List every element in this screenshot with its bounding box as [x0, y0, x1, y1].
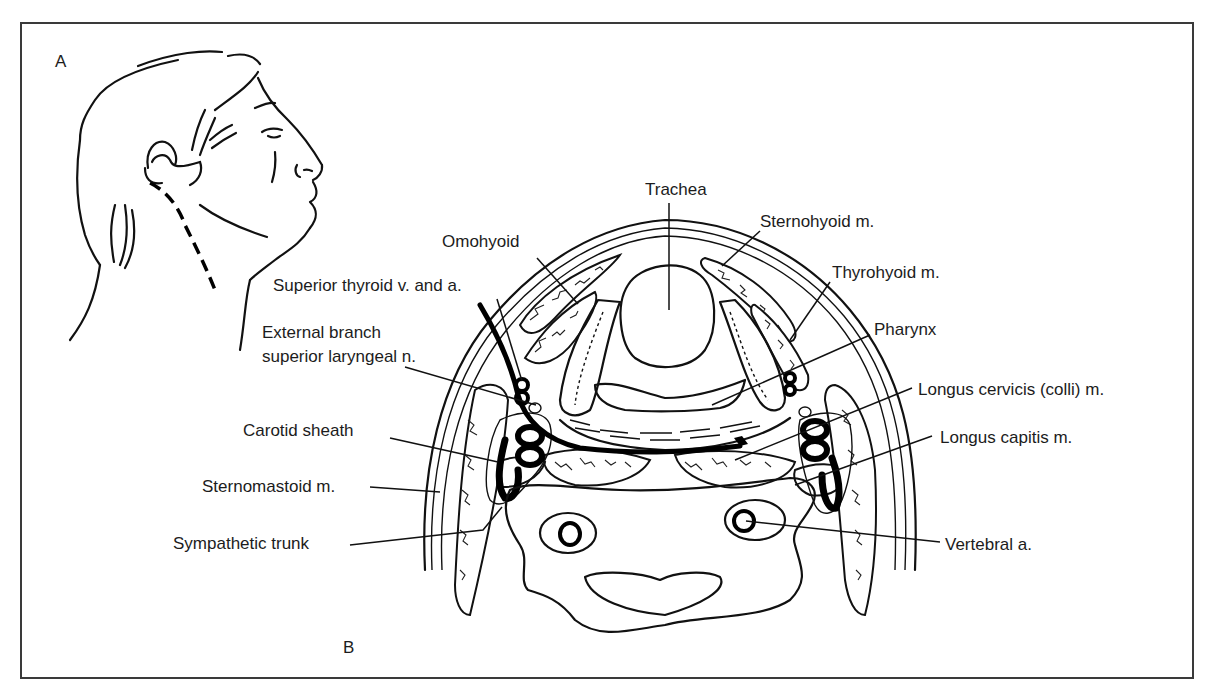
- pharynx-shape: [595, 380, 745, 411]
- label-trachea: Trachea: [645, 180, 707, 199]
- label-external-branch-1: External branch: [262, 323, 381, 342]
- label-longus-capitis: Longus capitis m.: [940, 428, 1072, 447]
- label-sternomastoid: Sternomastoid m.: [202, 477, 335, 496]
- spinal-canal-shape: [585, 573, 721, 615]
- illustration: [0, 0, 1213, 692]
- label-vertebral-artery: Vertebral a.: [945, 535, 1032, 554]
- label-carotid-sheath: Carotid sheath: [243, 421, 354, 440]
- head-profile-drawing: [70, 51, 322, 350]
- label-pharynx: Pharynx: [874, 320, 936, 339]
- trachea-shape: [621, 265, 715, 367]
- label-thyrohyoid: Thyrohyoid m.: [832, 263, 940, 282]
- anatomy-figure: A B Trachea Sternohyoid m. Omohyoid Thyr…: [0, 0, 1213, 692]
- label-external-branch-2: superior laryngeal n.: [262, 347, 416, 366]
- left-vertebral-artery: [560, 523, 580, 545]
- label-sternohyoid: Sternohyoid m.: [760, 212, 874, 231]
- label-superior-thyroid: Superior thyroid v. and a.: [273, 276, 462, 295]
- panel-label-a: A: [55, 52, 66, 71]
- panel-label-b: B: [343, 638, 354, 657]
- label-sympathetic-trunk: Sympathetic trunk: [173, 534, 309, 553]
- label-omohyoid: Omohyoid: [442, 232, 519, 251]
- label-longus-cervicis: Longus cervicis (colli) m.: [918, 380, 1104, 399]
- incision-line: [150, 183, 215, 290]
